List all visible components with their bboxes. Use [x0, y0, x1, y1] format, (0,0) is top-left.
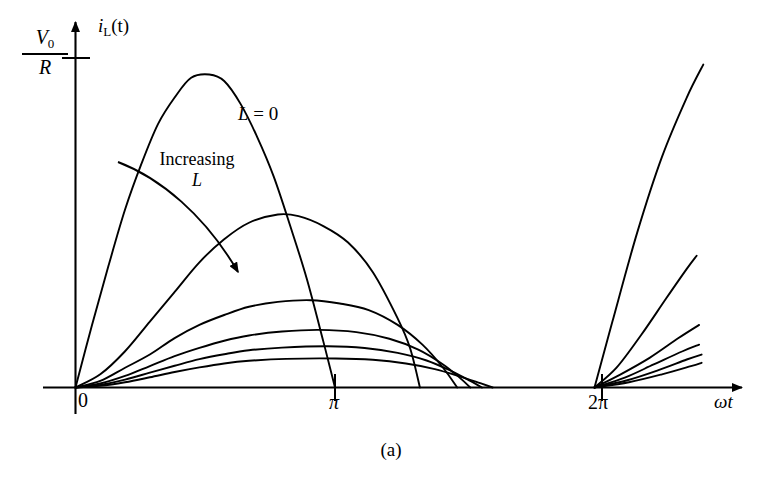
y-axis-label: iL(t)	[98, 16, 129, 38]
fraction-denominator: R	[22, 56, 68, 79]
axis-ticks	[62, 58, 602, 401]
figure-caption: (a)	[0, 440, 782, 459]
increasing-line2: L	[149, 171, 245, 189]
curve-6-segment-1	[76, 358, 493, 387]
increasing-line1: Increasing	[160, 149, 235, 169]
curve-family	[76, 65, 704, 388]
curve-1-segment-2	[595, 65, 704, 388]
figure-root: iL(t) V0 R 0 π 2π ωt L = 0 IncreasingL (…	[0, 0, 782, 480]
x-axis-label: ωt	[714, 392, 733, 411]
curve-4-segment-2	[595, 345, 700, 388]
curve-1-segment-1	[76, 74, 336, 387]
annotation-increasing-l: IncreasingL	[149, 150, 245, 189]
fraction-bar	[22, 53, 68, 55]
x-tick-label-pi: π	[329, 392, 339, 412]
y-tick-label-v0-over-r: V0 R	[22, 26, 68, 79]
fraction-numerator: V0	[22, 26, 68, 52]
x-tick-label-0: 0	[78, 390, 88, 410]
curve-label-l-equals-0: L = 0	[238, 104, 278, 123]
plot-canvas	[0, 0, 782, 480]
x-tick-label-2pi: 2π	[588, 392, 608, 412]
